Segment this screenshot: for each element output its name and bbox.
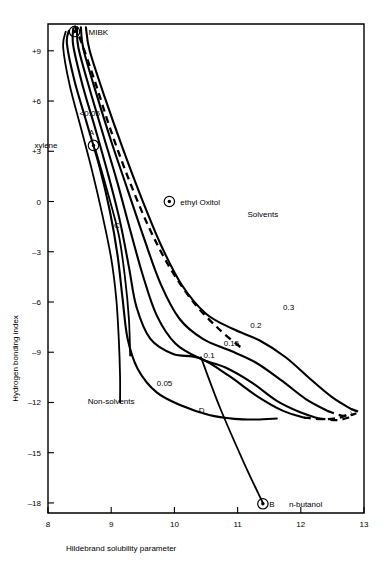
annotation-label-point-C: C xyxy=(114,221,120,230)
curve-0.1 xyxy=(73,28,304,417)
y-tick-label--6: –6 xyxy=(32,298,41,307)
region-label-solvents-region: Solvents xyxy=(248,210,279,219)
curve-label-0.3: 0.3 xyxy=(283,303,295,312)
annotation-point-label-n-butanol: B xyxy=(269,500,274,509)
annotation-label-point-D: D xyxy=(199,406,205,415)
x-tick-label-9: 9 xyxy=(109,520,114,529)
y-tick-label-0: 0 xyxy=(37,198,42,207)
curve-0.3-dashed-tail xyxy=(351,409,360,412)
x-tick-label-8: 8 xyxy=(46,520,51,529)
x-axis-title: Hildebrand solubility parameter xyxy=(66,544,177,553)
y-tick-label-+6: +6 xyxy=(32,97,42,106)
curve-label-0.05: 0.05 xyxy=(157,379,173,388)
chart-root: 8910111213+9+6+30–3–6–9–12–15–18Hildebra… xyxy=(0,0,388,561)
solubility-chart: 8910111213+9+6+30–3–6–9–12–15–18Hildebra… xyxy=(0,0,388,561)
x-tick-label-13: 13 xyxy=(360,520,369,529)
marker-dot-xylene xyxy=(92,144,95,147)
plot-frame xyxy=(48,24,364,513)
y-tick-label-+9: +9 xyxy=(32,47,42,56)
curves-layer xyxy=(63,26,361,503)
curve-0.05 xyxy=(67,31,277,420)
annotation-label-ethyl-oxitol: ethyl Oxitol xyxy=(180,198,220,207)
y-tick-label--18: –18 xyxy=(28,499,42,508)
region-label-non-solvents-region: Non-solvents xyxy=(88,397,135,406)
curve-0.3 xyxy=(86,27,351,409)
marker-dot-MIBK xyxy=(73,30,76,33)
marker-dot-n-butanol xyxy=(261,502,264,505)
curve-0.2-dashed-tail xyxy=(327,411,356,416)
y-tick-label--9: –9 xyxy=(32,348,41,357)
axes-layer: 8910111213+9+6+30–3–6–9–12–15–18Hildebra… xyxy=(11,24,369,553)
curve-label-0.15: 0.15 xyxy=(224,339,240,348)
y-tick-label--12: –12 xyxy=(28,398,42,407)
annotation-point-label-xylene: A xyxy=(89,128,95,137)
curve-label-0.2: 0.2 xyxy=(250,321,262,330)
curve-label-lt-0.05-inner: <0.05 xyxy=(80,109,101,118)
annotation-label-xylene: xylene xyxy=(34,141,58,150)
x-tick-label-11: 11 xyxy=(233,520,242,529)
x-tick-label-10: 10 xyxy=(170,520,179,529)
marker-dot-ethyl-oxitol xyxy=(168,200,171,203)
annotation-label-n-butanol: n-butanol xyxy=(289,500,323,509)
y-tick-label--15: –15 xyxy=(28,449,42,458)
annotation-label-MIBK: MIBK xyxy=(89,28,109,37)
x-tick-label-12: 12 xyxy=(296,520,305,529)
y-axis-title: Hydrogen bonding index xyxy=(11,315,20,402)
curve-label-0.1: 0.1 xyxy=(203,351,215,360)
curve-outer-boundary xyxy=(75,26,243,349)
labels-layer: 0.050.10.150.20.3<0.05MIBKxyleneAethyl O… xyxy=(34,26,322,509)
y-tick-label--3: –3 xyxy=(32,248,41,257)
